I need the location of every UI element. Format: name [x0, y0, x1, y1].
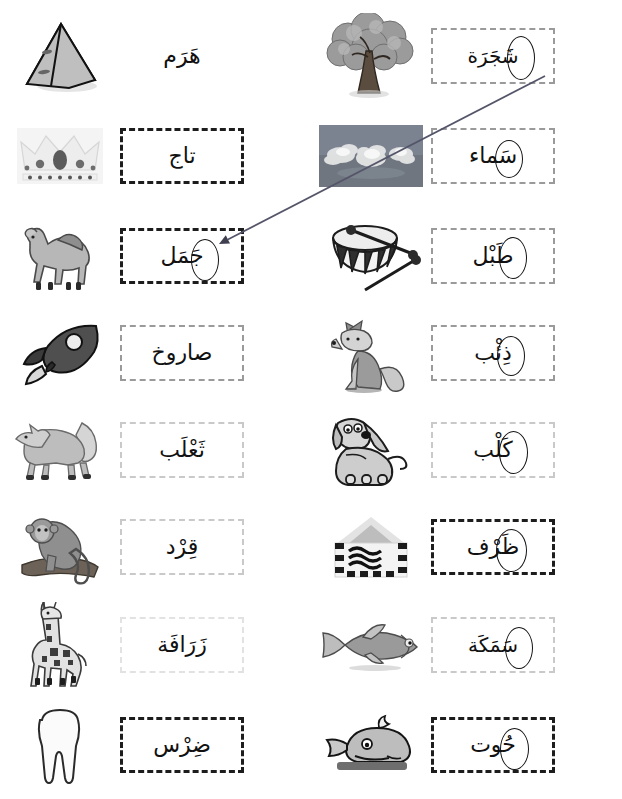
right-column: شَجَرَة: [311, 0, 622, 799]
fox-icon: [0, 400, 120, 499]
wordbox-shajarah[interactable]: شَجَرَة: [431, 28, 555, 84]
wordbox-kalb[interactable]: كَلْب: [431, 422, 555, 478]
worksheet-page: هَرَم: [0, 0, 622, 799]
row-right-2: طَبْل: [311, 206, 622, 305]
wordbox-taaj[interactable]: تاج: [120, 128, 244, 184]
row-left-4: ثَعْلَب: [0, 400, 311, 499]
word-text: ضِرْس: [153, 728, 211, 761]
row-right-7: حُوت: [311, 695, 622, 794]
word-text: صاروخ: [152, 336, 213, 369]
word-cell-right-6: سَمَكَة: [431, 595, 609, 694]
word-cell-left-6: زَرَافَة: [120, 595, 298, 694]
wordbox-dirs[interactable]: ضِرْس: [120, 717, 244, 773]
word-cell-right-7: حُوت: [431, 695, 609, 794]
rocket-icon: [0, 303, 120, 402]
wordbox-hoot[interactable]: حُوت: [431, 717, 555, 773]
row-left-2: جَمَل: [0, 206, 311, 305]
wolf-icon: [311, 303, 431, 402]
word-cell-right-4: كَلْب: [431, 400, 609, 499]
row-right-0: شَجَرَة: [311, 6, 622, 105]
wordbox-haram[interactable]: هَرَم: [120, 28, 244, 84]
wordbox-samaa[interactable]: سَماء: [431, 128, 555, 184]
word-text: ذِئْب: [474, 336, 512, 369]
wordbox-tabl[interactable]: طَبْل: [431, 228, 555, 284]
monkey-icon: [0, 497, 120, 596]
left-column: هَرَم: [0, 0, 311, 799]
wordbox-saarookh[interactable]: صاروخ: [120, 325, 244, 381]
wordbox-thalab[interactable]: ثَعْلَب: [120, 422, 244, 478]
whale-icon: [311, 695, 431, 794]
row-left-6: زَرَافَة: [0, 595, 311, 694]
word-text: حُوت: [470, 728, 516, 761]
wordbox-qird[interactable]: قِرْد: [120, 519, 244, 575]
sky-clouds-photo: [311, 106, 431, 205]
word-cell-left-5: قِرْد: [120, 497, 298, 596]
row-left-1: تاج: [0, 106, 311, 205]
word-text: ثَعْلَب: [159, 433, 205, 466]
giraffe-icon: [0, 595, 120, 694]
word-cell-left-3: صاروخ: [120, 303, 298, 402]
pyramid-icon: [0, 6, 120, 105]
row-left-3: صاروخ: [0, 303, 311, 402]
wordbox-zarf[interactable]: ظَرْف: [431, 519, 555, 575]
wordbox-jamal[interactable]: جَمَل: [120, 228, 244, 284]
row-right-6: سَمَكَة: [311, 595, 622, 694]
word-text: جَمَل: [161, 239, 204, 272]
word-cell-right-1: سَماء: [431, 106, 609, 205]
row-left-0: هَرَم: [0, 6, 311, 105]
word-text: زَرَافَة: [157, 628, 207, 661]
row-right-5: ظَرْف: [311, 497, 622, 596]
dog-icon: [311, 400, 431, 499]
camel-icon: [0, 206, 120, 305]
tooth-icon: [0, 695, 120, 794]
envelope-icon: [311, 497, 431, 596]
wordbox-zaraafah[interactable]: زَرَافَة: [120, 617, 244, 673]
word-cell-right-5: ظَرْف: [431, 497, 609, 596]
word-text: سَماء: [469, 139, 517, 172]
row-left-7: ضِرْس: [0, 695, 311, 794]
row-right-4: كَلْب: [311, 400, 622, 499]
drum-icon: [311, 206, 431, 305]
word-cell-left-0: هَرَم: [120, 6, 298, 105]
word-text: شَجَرَة: [467, 41, 518, 71]
word-text: تاج: [168, 139, 195, 172]
row-right-3: ذِئْب: [311, 303, 622, 402]
word-text: قِرْد: [166, 530, 198, 563]
word-cell-right-3: ذِئْب: [431, 303, 609, 402]
word-text: طَبْل: [473, 239, 514, 272]
word-cell-left-7: ضِرْس: [120, 695, 298, 794]
fish-icon: [311, 595, 431, 694]
wordbox-dhib[interactable]: ذِئْب: [431, 325, 555, 381]
word-text: سَمَكَة: [468, 630, 518, 660]
word-text: كَلْب: [473, 433, 512, 466]
wordbox-samakah[interactable]: سَمَكَة: [431, 617, 555, 673]
row-right-1: سَماء: [311, 106, 622, 205]
word-text: هَرَم: [163, 39, 200, 72]
word-cell-right-2: طَبْل: [431, 206, 609, 305]
row-left-5: قِرْد: [0, 497, 311, 596]
word-cell-right-0: شَجَرَة: [431, 6, 609, 105]
word-cell-left-1: تاج: [120, 106, 298, 205]
word-text: ظَرْف: [467, 530, 519, 563]
tree-icon: [311, 6, 431, 105]
word-cell-left-4: ثَعْلَب: [120, 400, 298, 499]
word-cell-left-2: جَمَل: [120, 206, 298, 305]
crown-icon: [0, 106, 120, 205]
